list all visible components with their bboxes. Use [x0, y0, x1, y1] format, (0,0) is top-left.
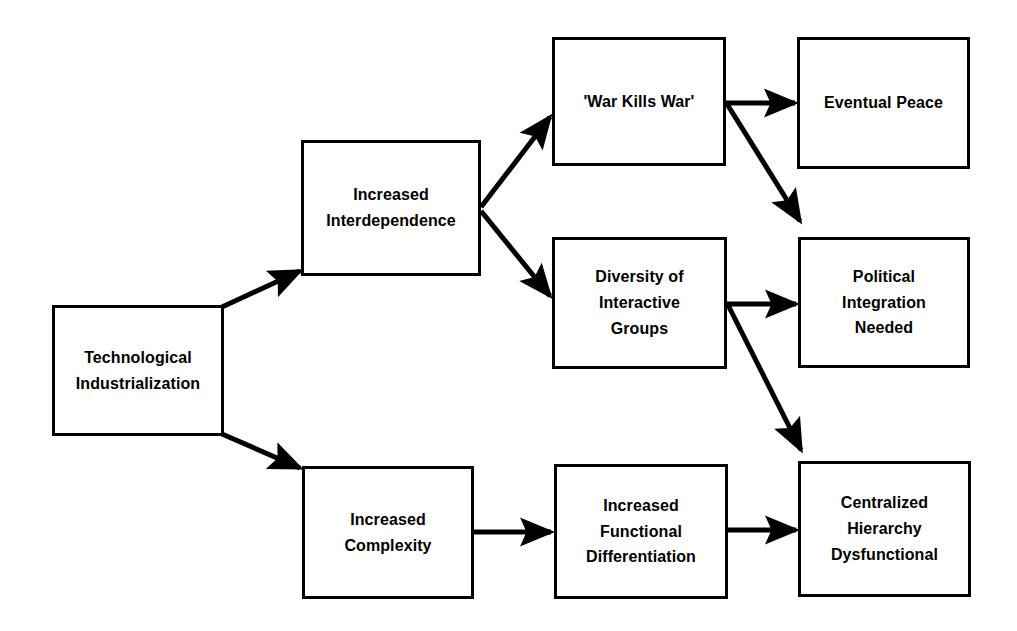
node-label: 'War Kills War'	[579, 89, 698, 115]
node-label: Increased Complexity	[340, 507, 435, 559]
node-increased-functional-differentiation[interactable]: Increased Functional Differentiation	[554, 464, 728, 599]
node-label: Diversity of Interactive Groups	[591, 264, 687, 342]
edge-interdependence-to-diversity	[481, 211, 550, 296]
node-label: Increased Interdependence	[322, 182, 460, 234]
node-increased-complexity[interactable]: Increased Complexity	[302, 466, 474, 599]
node-label: Increased Functional Differentiation	[582, 493, 700, 571]
node-label: Political Integration Needed	[838, 264, 930, 342]
edge-interdependence-to-war-kills-war	[481, 117, 550, 207]
node-centralized-hierarchy-dysfunctional[interactable]: Centralized Hierarchy Dysfunctional	[798, 461, 971, 597]
edge-diversity-to-centralized-hierarchy	[728, 305, 801, 450]
node-label: Eventual Peace	[820, 90, 947, 116]
node-political-integration-needed[interactable]: Political Integration Needed	[798, 237, 970, 368]
node-war-kills-war[interactable]: 'War Kills War'	[552, 37, 726, 166]
edge-tech-to-interdependence	[222, 271, 300, 307]
node-label: Centralized Hierarchy Dysfunctional	[827, 490, 942, 568]
node-diversity-of-interactive-groups[interactable]: Diversity of Interactive Groups	[552, 237, 727, 369]
edge-tech-to-complexity	[222, 434, 300, 468]
edge-war-kills-war-to-political-integration	[727, 104, 800, 221]
node-eventual-peace[interactable]: Eventual Peace	[797, 37, 970, 169]
flowchart-canvas: Technological Industrialization Increase…	[0, 0, 1017, 631]
node-label: Technological Industrialization	[72, 345, 204, 397]
node-increased-interdependence[interactable]: Increased Interdependence	[301, 140, 481, 276]
node-technological-industrialization[interactable]: Technological Industrialization	[52, 305, 224, 436]
